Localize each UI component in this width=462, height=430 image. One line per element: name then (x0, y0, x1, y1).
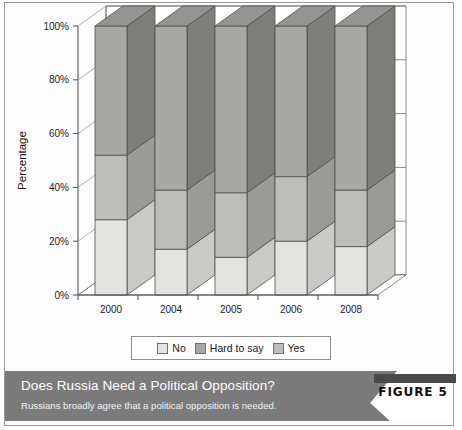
y-axis-title: Percentage (16, 131, 28, 190)
figure-title: Does Russia Need a Political Opposition? (21, 376, 351, 396)
x-axis-tick-label: 2006 (280, 304, 303, 315)
bar-segment-front (215, 193, 247, 258)
legend-swatch-hard-to-say (195, 343, 206, 354)
legend-label-yes: Yes (288, 343, 305, 354)
y-axis-tick-label: 80% (49, 74, 69, 85)
bar-segment-front (155, 190, 187, 249)
y-axis-tick-label: 0% (55, 290, 70, 301)
bar-segment-front (275, 26, 307, 177)
figure-page: 0%20%40%60%80%100%Percentage200020042005… (0, 0, 462, 430)
bar-segment-front (95, 26, 127, 155)
bar-segment-front (95, 220, 127, 295)
bar-segment-front (335, 190, 367, 246)
legend-swatch-no (157, 343, 168, 354)
legend-item-hard-to-say: Hard to say (195, 343, 264, 354)
chart-plot-area: 0%20%40%60%80%100%Percentage200020042005… (0, 0, 462, 330)
caption-text-block: Does Russia Need a Political Opposition?… (21, 376, 351, 412)
x-axis-tick-label: 2008 (340, 304, 363, 315)
bar-segment-front (155, 249, 187, 295)
figure-subtitle: Russians broadly agree that a political … (21, 399, 351, 413)
bar-segment-front (215, 257, 247, 295)
legend-item-no: No (157, 343, 185, 354)
x-axis-tick-label: 2004 (160, 304, 183, 315)
figure-badge-bar (374, 374, 456, 383)
y-axis-tick-label: 100% (43, 21, 69, 32)
y-axis-tick-label: 60% (49, 128, 69, 139)
legend-item-yes: Yes (273, 343, 305, 354)
y-axis-tick-label: 20% (49, 236, 69, 247)
stacked-column-chart: 0%20%40%60%80%100%Percentage200020042005… (0, 0, 462, 335)
y-axis-tick-label: 40% (49, 182, 69, 193)
bar-segment-side (367, 6, 395, 190)
bar-segment-front (275, 241, 307, 295)
bar-segment-front (335, 26, 367, 190)
bar-segment-front (155, 26, 187, 190)
legend-label-no: No (172, 343, 185, 354)
bar-segment-front (215, 26, 247, 193)
figure-badge: FIGURE 5 (370, 374, 456, 398)
bar-segment-side (307, 6, 335, 177)
bar-segment-side (127, 6, 155, 155)
bar-segment-side (247, 6, 275, 193)
x-axis-tick-label: 2005 (220, 304, 243, 315)
x-axis-tick-label: 2000 (100, 304, 123, 315)
chart-legend: No Hard to say Yes (131, 336, 331, 360)
bar-segment-front (275, 177, 307, 242)
bar-segment-front (335, 247, 367, 295)
legend-label-hard-to-say: Hard to say (210, 343, 264, 354)
figure-badge-label: FIGURE 5 (370, 386, 456, 398)
bar-segment-side (187, 6, 215, 190)
bar-segment-front (95, 155, 127, 220)
legend-swatch-yes (273, 343, 284, 354)
